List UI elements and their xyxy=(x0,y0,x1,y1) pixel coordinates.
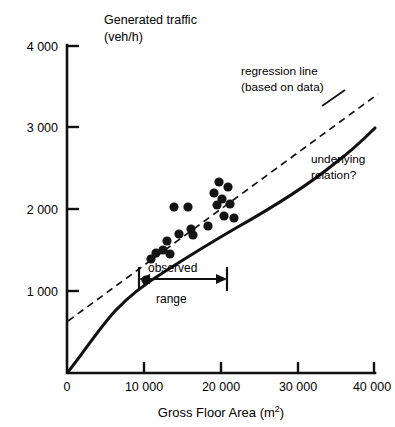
y-tick-label-1000: 1 000 xyxy=(27,285,58,299)
data-point xyxy=(217,194,226,203)
underlying-annotation-line1: underlying xyxy=(311,152,365,166)
x-tick-label-30000: 30 000 xyxy=(279,380,317,394)
data-point xyxy=(188,230,197,239)
data-point xyxy=(223,182,232,191)
data-point xyxy=(174,229,183,238)
x-tick-label-20000: 20 000 xyxy=(202,380,240,394)
data-point xyxy=(209,188,218,197)
data-point xyxy=(229,213,238,222)
regression-annotation-leader xyxy=(322,90,345,106)
data-point xyxy=(203,221,212,230)
underlying-annotation-line2: relation? xyxy=(311,168,357,182)
range-label: range xyxy=(156,292,187,306)
regression-annotation-line1: regression line xyxy=(241,64,318,78)
data-point xyxy=(169,202,178,211)
chart-figure: Generated traffic (veh/h) 4 000 3 000 2 … xyxy=(0,0,395,427)
y-tick-label-2000: 2 000 xyxy=(27,203,58,217)
observed-range-indicator: observed range xyxy=(139,261,227,306)
observed-range-right-arrowhead xyxy=(216,274,227,284)
data-point xyxy=(183,202,192,211)
x-tick-label-0: 0 xyxy=(64,380,71,394)
y-tick-label-3000: 3 000 xyxy=(27,121,58,135)
observed-label: observed xyxy=(148,261,197,275)
y-axis-units: (veh/h) xyxy=(104,30,143,44)
x-tick-label-40000: 40 000 xyxy=(353,380,391,394)
data-point xyxy=(162,236,171,245)
underlying-relation-annotation: underlying relation? xyxy=(311,152,365,182)
data-point xyxy=(225,199,234,208)
generated-traffic-scatter-chart: Generated traffic (veh/h) 4 000 3 000 2 … xyxy=(0,0,395,427)
x-tick-label-10000: 10 000 xyxy=(125,380,163,394)
regression-line-annotation: regression line (based on data) xyxy=(241,64,345,106)
y-axis-title-line1: Generated traffic xyxy=(104,13,197,27)
data-point xyxy=(214,177,223,186)
y-tick-label-4000: 4 000 xyxy=(27,40,58,54)
x-axis-title-tail: ) xyxy=(280,405,284,420)
data-point xyxy=(165,249,174,258)
x-axis-title-main: Gross Floor Area (m xyxy=(158,405,275,420)
regression-line xyxy=(68,94,378,321)
x-axis-title: Gross Floor Area (m2) xyxy=(158,404,284,420)
regression-annotation-line2: (based on data) xyxy=(241,80,324,94)
data-point xyxy=(219,211,228,220)
chart-axes xyxy=(67,45,375,373)
